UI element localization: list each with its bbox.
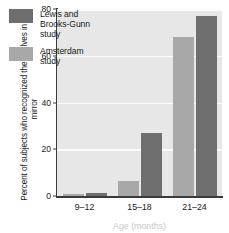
y-tick-label: 0: [46, 192, 51, 201]
x-axis-title: Age (months): [57, 221, 222, 231]
bar: [118, 181, 139, 196]
bar: [196, 16, 217, 196]
bar: [173, 37, 194, 196]
legend-label: Amsterdam study: [40, 46, 83, 66]
x-tick-label: 9–12: [75, 202, 95, 212]
legend-label: Lewis and Brooks-Gunn study: [40, 9, 90, 40]
bar-group: [167, 9, 222, 196]
x-tick-label: 21–24: [182, 202, 206, 212]
y-tick-label: 20: [41, 145, 51, 154]
legend-swatch: [9, 47, 33, 61]
x-tick-label: 15–18: [127, 202, 151, 212]
bar-chart: Percent of subjects who recognized thems…: [0, 0, 229, 233]
chart-legend: Lewis and Brooks-Gunn studyAmsterdam stu…: [9, 9, 159, 72]
x-axis: 9–1215–1821–24: [57, 198, 222, 218]
legend-swatch: [9, 9, 33, 23]
legend-entry: Amsterdam study: [9, 46, 159, 66]
legend-entry: Lewis and Brooks-Gunn study: [9, 9, 159, 40]
bar: [63, 194, 84, 196]
y-tick-label: 40: [41, 98, 51, 107]
bar: [141, 133, 162, 196]
bar: [86, 193, 107, 197]
